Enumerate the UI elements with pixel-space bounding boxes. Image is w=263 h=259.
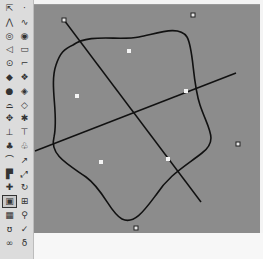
line-1[interactable]: [64, 20, 201, 202]
tool-move-button[interactable]: ✚: [3, 182, 16, 193]
arc-icon: ◁: [6, 44, 13, 55]
gumball-icon: ⚲: [21, 210, 28, 221]
tool-properties-button[interactable]: δ: [18, 238, 31, 249]
viewport-canvas[interactable]: [34, 5, 260, 234]
tool-blend-button[interactable]: ⌒: [3, 155, 16, 166]
extrude-icon: ▛: [6, 169, 13, 180]
blend-icon: ⌒: [5, 155, 14, 166]
move-icon: ✚: [6, 182, 14, 193]
tool-gumball-button[interactable]: ⚲: [18, 210, 31, 221]
rotate-icon: ↻: [21, 182, 29, 193]
edit-point-1[interactable]: [127, 49, 131, 53]
loft-icon: ⤢: [21, 169, 28, 180]
tool-polygon-button[interactable]: ⊙: [3, 58, 16, 69]
tool-split-button[interactable]: ⊤: [18, 127, 31, 138]
cylinder-icon: ⌓: [6, 100, 13, 111]
dimension-icon: ⊞: [21, 196, 29, 207]
tool-sphere-button[interactable]: ●: [3, 86, 16, 97]
mesh-icon: ✥: [6, 113, 14, 124]
tool-fillet-button[interactable]: ⌐: [18, 58, 31, 69]
select-points-icon: ⇱: [6, 3, 14, 14]
box-solid-icon: ◈: [21, 86, 28, 97]
network-surface-icon: ❖: [20, 72, 28, 83]
control-point-4[interactable]: [134, 226, 138, 230]
tool-boolean-union-button[interactable]: ◇: [18, 100, 31, 111]
edit-point-2[interactable]: [75, 94, 79, 98]
control-point-1[interactable]: [62, 18, 66, 22]
tool-ellipse-button[interactable]: ◉: [18, 31, 31, 42]
properties-icon: δ: [22, 238, 28, 249]
tool-surface-from-points-button[interactable]: ◆: [3, 72, 16, 83]
split-icon: ⊤: [21, 127, 29, 138]
viewport-top[interactable]: [34, 4, 260, 234]
tool-dimension-button[interactable]: ⊞: [18, 196, 31, 207]
ellipse-icon: ◉: [21, 31, 29, 42]
tool-rectangle-button[interactable]: ▭: [18, 44, 31, 55]
boolean-union-icon: ◇: [21, 100, 28, 111]
tool-mesh-button[interactable]: ✥: [3, 113, 16, 124]
status-bar: [34, 233, 263, 259]
line-2[interactable]: [35, 73, 236, 151]
tool-box-solid-button[interactable]: ◈: [18, 86, 31, 97]
control-point-3[interactable]: [236, 142, 240, 146]
tool-bend-button[interactable]: ʊ: [3, 224, 16, 235]
explode-icon: ✱: [21, 113, 29, 124]
trim-icon: ⊥: [6, 127, 14, 138]
tool-network-surface-button[interactable]: ❖: [18, 72, 31, 83]
sphere-icon: ●: [6, 86, 14, 97]
polygon-icon: ⊙: [6, 58, 14, 69]
surface-from-points-icon: ◆: [6, 72, 13, 83]
tool-point-button[interactable]: ·: [18, 3, 31, 14]
tool-trim-button[interactable]: ⊥: [3, 127, 16, 138]
tool-curve-button[interactable]: ∿: [18, 17, 31, 28]
analyze-icon: ∞: [6, 238, 14, 249]
tool-cylinder-button[interactable]: ⌓: [3, 100, 16, 111]
control-point-2[interactable]: [191, 13, 195, 17]
tool-polyline-button[interactable]: ⋀: [3, 17, 16, 28]
tool-loft-button[interactable]: ⤢: [18, 169, 31, 180]
cage-edit-icon: ▣: [5, 196, 14, 207]
tool-array-button[interactable]: ▦: [3, 210, 16, 221]
tool-arc-button[interactable]: ◁: [3, 44, 16, 55]
tool-ungroup-button[interactable]: ♧: [18, 141, 31, 152]
tool-sweep-button[interactable]: ↗: [18, 155, 31, 166]
rectangle-icon: ▭: [20, 44, 29, 55]
fillet-icon: ⌐: [21, 58, 29, 69]
tool-rotate-button[interactable]: ↻: [18, 182, 31, 193]
closed-curve[interactable]: [53, 31, 211, 221]
array-icon: ▦: [5, 210, 14, 221]
bend-icon: ʊ: [7, 224, 13, 235]
ungroup-icon: ♧: [20, 141, 28, 152]
edit-point-5[interactable]: [166, 157, 170, 161]
tool-check-button[interactable]: ✓: [18, 224, 31, 235]
tool-group-button[interactable]: ♣: [3, 141, 16, 152]
curve-icon: ∿: [21, 17, 29, 28]
tool-analyze-button[interactable]: ∞: [3, 238, 16, 249]
polyline-icon: ⋀: [6, 17, 13, 28]
tool-cage-edit-button[interactable]: ▣: [3, 196, 16, 207]
group-icon: ♣: [5, 141, 13, 152]
tool-extrude-button[interactable]: ▛: [3, 169, 16, 180]
tool-explode-button[interactable]: ✱: [18, 113, 31, 124]
tool-select-points-button[interactable]: ⇱: [3, 3, 16, 14]
check-icon: ✓: [21, 224, 29, 235]
point-icon: ·: [23, 3, 26, 14]
edit-point-3[interactable]: [184, 89, 188, 93]
edit-point-4[interactable]: [99, 160, 103, 164]
circle-icon: ◎: [6, 31, 14, 42]
tool-circle-button[interactable]: ◎: [3, 31, 16, 42]
sweep-icon: ↗: [21, 155, 29, 166]
tool-palette: ⇱·⋀∿◎◉◁▭⊙⌐◆❖●◈⌓◇✥✱⊥⊤♣♧⌒↗▛⤢✚↻▣⊞▦⚲ʊ✓∞δ: [0, 0, 34, 259]
